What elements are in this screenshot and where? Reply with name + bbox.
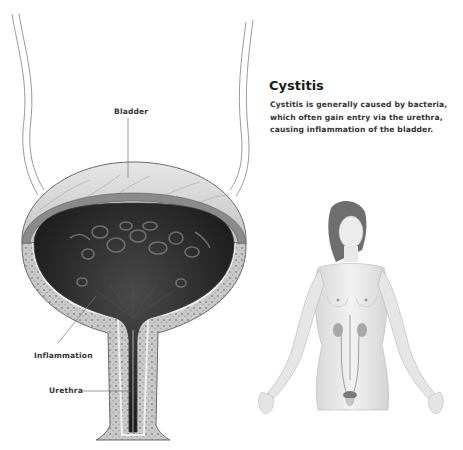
inflammation-label: Inflammation [34,351,93,360]
ureter-right [230,20,253,196]
article-title: Cystitis [269,78,324,93]
ureter-left [12,14,44,195]
bladder-cross-section-illustration [0,0,463,450]
kidney-left-icon [333,323,343,337]
female-figure-illustration [259,201,444,414]
article-description: Cystitis is generally caused by bacteria… [270,99,463,137]
kidney-right-icon [357,323,367,337]
urethra-label: Urethra [49,386,83,395]
bladder-label: Bladder [114,107,148,116]
figure-bladder-icon [343,391,357,399]
